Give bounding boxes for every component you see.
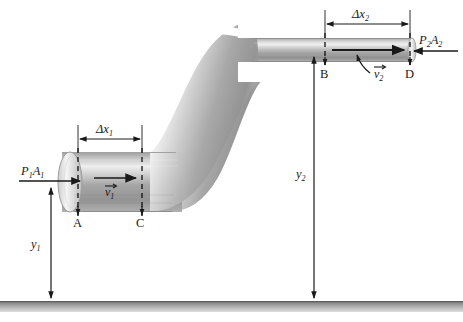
point-a-label: A (73, 216, 82, 230)
v2-sub: 2 (379, 74, 383, 83)
point-b-label: B (320, 67, 328, 81)
height-measure-y1: y1 (29, 188, 51, 298)
bernoulli-pipe-diagram: Δx1 P1A1 v1 A C (0, 0, 463, 322)
height-measure-y2: y2 (294, 57, 314, 298)
ground-reference-line (0, 301, 463, 312)
p1-symbol: P (20, 164, 29, 178)
v1-sub: 1 (110, 192, 114, 201)
y1-sub: 1 (37, 244, 41, 253)
a1-symbol: A (32, 164, 41, 178)
y2-label: y2 (294, 167, 306, 183)
delta-x2-label: Δx2 (351, 7, 369, 23)
pipe-assembly (58, 20, 416, 212)
point-c-label: C (136, 216, 144, 230)
delta-x2-sub: 2 (365, 14, 369, 23)
dimension-delta-x1: Δx1 (78, 122, 142, 152)
point-d-label: D (405, 67, 414, 81)
y1-label: y1 (29, 237, 41, 253)
a2-sub: 2 (438, 40, 442, 49)
physics-diagram-canvas: Δx1 P1A1 v1 A C (0, 0, 463, 322)
y2-sub: 2 (302, 174, 306, 183)
v2-label: v2 (374, 67, 383, 83)
delta-x1-sub: 1 (109, 129, 113, 138)
upper-pipe-end-cap (408, 38, 416, 62)
force-arrow-outlet: P2A2 (414, 33, 458, 51)
p2a2-label: P2A2 (418, 33, 442, 49)
delta-x1-label: Δx1 (95, 122, 113, 138)
pipe-taper-upper-lower (238, 62, 300, 82)
p1a1-label: P1A1 (20, 164, 44, 180)
p2-symbol: P (418, 33, 427, 47)
a1-sub: 1 (40, 171, 44, 180)
delta-x1-delta: Δ (95, 122, 103, 136)
dimension-delta-x2: Δx2 (325, 7, 410, 38)
a2-symbol: A (430, 33, 439, 47)
delta-x2-delta: Δ (351, 7, 359, 21)
